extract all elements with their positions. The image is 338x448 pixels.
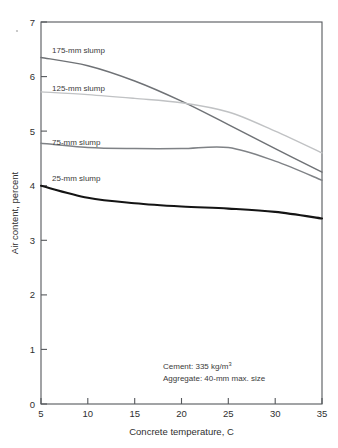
decorative-speck — [16, 30, 18, 32]
y-tick-label-7: 7 — [30, 17, 35, 28]
x-axis-tick-labels: 5 10 15 20 25 30 35 — [38, 408, 327, 419]
y-axis-ticks — [41, 22, 47, 404]
annotation-cement-superscript: 3 — [228, 361, 231, 367]
x-tick-label-35: 35 — [317, 408, 328, 419]
annotation-cement: Cement: 335 kg/m3 — [163, 361, 232, 371]
x-axis-ticks — [41, 398, 322, 404]
annotation-cement-text: Cement: 335 kg/m — [163, 362, 229, 371]
x-tick-label-15: 15 — [129, 408, 140, 419]
x-tick-label-30: 30 — [270, 408, 281, 419]
y-tick-label-4: 4 — [30, 180, 35, 191]
annotation-aggregate: Aggregate: 40-mm max. size — [163, 374, 266, 383]
y-axis-tick-labels: 7 6 5 4 3 2 1 0 — [30, 17, 35, 410]
series-labels-group: 175-mm slump 125-mm slump 75-mm slump 25… — [52, 46, 105, 183]
y-tick-label-0: 0 — [30, 399, 35, 410]
series-label-125mm: 125-mm slump — [52, 84, 105, 93]
x-axis-title: Concrete temperature, C — [129, 426, 234, 437]
x-tick-label-20: 20 — [176, 408, 187, 419]
series-line-175mm-slump — [41, 57, 322, 172]
annotation-block: Cement: 335 kg/m3 Aggregate: 40-mm max. … — [163, 361, 266, 383]
y-tick-label-1: 1 — [30, 344, 35, 355]
y-tick-label-2: 2 — [30, 289, 35, 300]
air-content-vs-temperature-chart: 7 6 5 4 3 2 1 0 5 10 15 20 25 30 35 — [0, 0, 338, 448]
series-line-25mm-slump — [41, 186, 322, 219]
series-label-175mm: 175-mm slump — [52, 46, 105, 55]
x-tick-label-10: 10 — [83, 408, 94, 419]
chart-figure: 7 6 5 4 3 2 1 0 5 10 15 20 25 30 35 — [0, 0, 338, 448]
x-tick-label-25: 25 — [223, 408, 234, 419]
series-label-75mm: 75-mm slump — [52, 138, 101, 147]
y-tick-label-6: 6 — [30, 71, 35, 82]
x-tick-label-5: 5 — [38, 408, 43, 419]
y-axis-title: Air content, percent — [9, 171, 20, 254]
series-label-25mm: 25-mm slump — [52, 174, 101, 183]
y-tick-label-5: 5 — [30, 126, 35, 137]
y-tick-label-3: 3 — [30, 235, 35, 246]
